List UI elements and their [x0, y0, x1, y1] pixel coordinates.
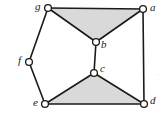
graph-node-d[interactable]: [141, 101, 148, 108]
graph-figure: gabfced ·: [0, 0, 167, 120]
shaded-face-ced: [45, 73, 144, 104]
graph-node-g[interactable]: [45, 5, 52, 12]
node-label-d: d: [150, 95, 156, 106]
graph-node-b[interactable]: [93, 39, 100, 46]
node-label-a: a: [150, 2, 156, 13]
node-label-e: e: [33, 97, 38, 108]
graph-edge-b-c: [94, 42, 96, 73]
node-label-g: g: [35, 1, 41, 12]
graph-edge-g-a: [48, 8, 143, 9]
graph-edge-g-f: [29, 8, 48, 62]
node-label-c: c: [100, 63, 105, 74]
margin-speck: ·: [157, 72, 159, 79]
graph-node-a[interactable]: [140, 6, 147, 13]
graph-edge-a-d: [143, 9, 144, 104]
shaded-face-gab: [48, 8, 143, 42]
graph-node-c[interactable]: [91, 70, 98, 77]
graph-canvas: [0, 0, 167, 120]
graph-node-f[interactable]: [26, 59, 33, 66]
node-label-f: f: [18, 55, 21, 66]
graph-node-e[interactable]: [42, 101, 49, 108]
node-label-b: b: [101, 39, 107, 50]
